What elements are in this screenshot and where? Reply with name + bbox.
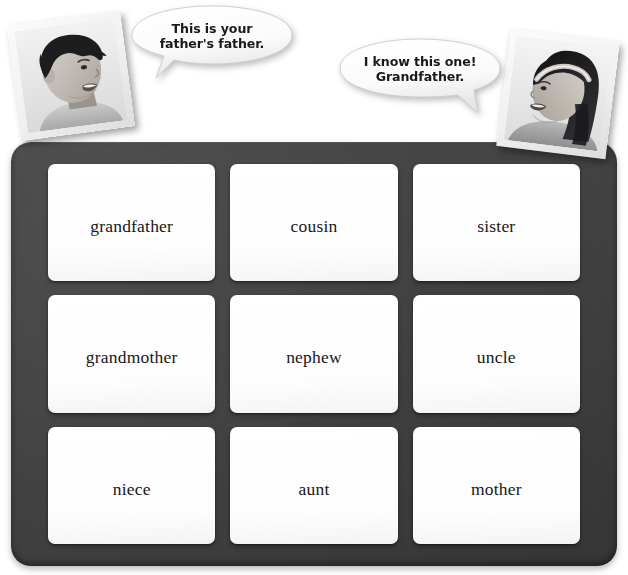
boy-photo xyxy=(7,11,135,141)
speech-bubble-text: This is your father's father. xyxy=(128,21,296,51)
card-label: nephew xyxy=(286,349,342,367)
vocabulary-card[interactable]: nephew xyxy=(230,295,397,412)
speech-line-2: father's father. xyxy=(148,36,276,51)
vocabulary-card[interactable]: grandfather xyxy=(48,164,215,281)
vocabulary-card[interactable]: mother xyxy=(413,427,580,544)
vocabulary-card[interactable]: niece xyxy=(48,427,215,544)
speech-line-1: This is your xyxy=(148,21,276,36)
photo-image xyxy=(504,37,612,152)
photo-frame xyxy=(496,29,620,160)
speech-bubble-girl: I know this one! Grandfather. xyxy=(336,37,504,123)
vocabulary-card[interactable]: uncle xyxy=(413,295,580,412)
girl-photo xyxy=(496,29,620,160)
card-label: mother xyxy=(471,481,522,499)
card-label: cousin xyxy=(291,218,338,236)
vocabulary-card[interactable]: cousin xyxy=(230,164,397,281)
speech-line-2: Grandfather. xyxy=(356,69,484,84)
speech-bubble-boy: This is your father's father. xyxy=(128,4,296,90)
speech-line-1: I know this one! xyxy=(356,54,484,69)
card-board: grandfather cousin sister grandmother ne… xyxy=(11,142,617,566)
speech-bubble-text: I know this one! Grandfather. xyxy=(336,54,504,84)
card-label: aunt xyxy=(299,481,330,499)
card-grid: grandfather cousin sister grandmother ne… xyxy=(48,164,580,544)
scene-root: grandfather cousin sister grandmother ne… xyxy=(0,0,628,575)
card-label: uncle xyxy=(477,349,516,367)
vocabulary-card[interactable]: aunt xyxy=(230,427,397,544)
photo-image xyxy=(15,19,127,133)
vocabulary-card[interactable]: grandmother xyxy=(48,295,215,412)
card-label: niece xyxy=(113,481,151,499)
card-label: grandmother xyxy=(86,349,178,367)
card-label: sister xyxy=(477,218,515,236)
vocabulary-card[interactable]: sister xyxy=(413,164,580,281)
photo-frame xyxy=(7,11,135,141)
card-label: grandfather xyxy=(90,218,173,236)
